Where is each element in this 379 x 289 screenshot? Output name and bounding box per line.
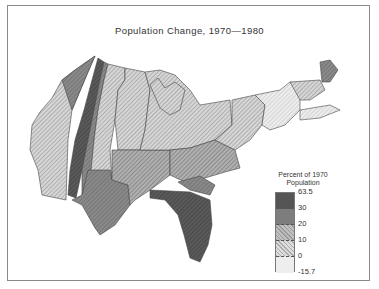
legend-title: Percent of 1970 Population (258, 171, 348, 187)
legend-tick-30: 30 (298, 203, 306, 212)
legend-swatch-neg (276, 257, 294, 273)
legend-tick-10: 10 (298, 235, 306, 244)
region-florida (150, 190, 212, 262)
legend-swatch-20-30 (276, 209, 294, 225)
choropleth-map (0, 0, 379, 289)
legend-title-line1: Percent of 1970 (258, 171, 348, 179)
legend-swatch-10-20 (276, 225, 294, 241)
legend-title-line2: Population (258, 179, 348, 187)
legend-tick-20: 20 (298, 219, 306, 228)
legend-tick-63-5: 63.5 (298, 187, 313, 196)
legend-swatch-30-63 (276, 193, 294, 209)
legend-swatch-0-10 (276, 241, 294, 257)
legend-tick-0: 0 (298, 251, 302, 260)
region-maine (320, 60, 338, 82)
legend-swatches (275, 192, 295, 272)
region-long-island (300, 105, 340, 120)
legend-tick-neg15-7: -15.7 (298, 267, 315, 276)
